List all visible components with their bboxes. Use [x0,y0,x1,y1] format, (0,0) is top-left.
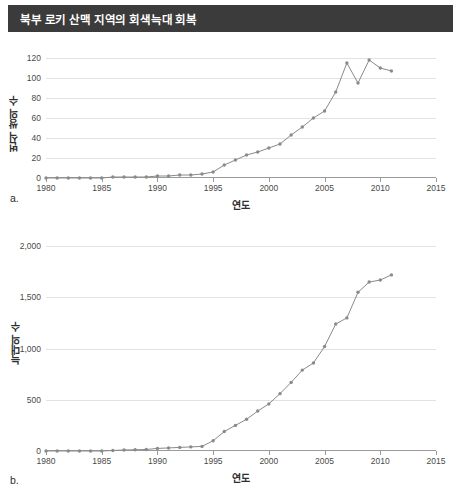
series-data-point [100,176,103,179]
x-tick-label: 1990 [148,456,167,466]
plot-area-a: 0204060801001201980198519901995200020052… [46,48,436,178]
x-tick-mark [269,178,270,182]
y-tick-label: 1,500 [20,292,41,302]
series-data-point [200,172,203,175]
series-data-point [44,449,47,452]
series-data-point [256,150,259,153]
series-data-point [89,176,92,179]
series-data-point [334,90,337,93]
x-tick-mark [436,451,437,455]
y-tick-label: 2,000 [20,241,41,251]
x-tick-label: 2015 [427,456,446,466]
x-tick-label: 2000 [259,183,278,193]
series-data-point [189,173,192,176]
series-data-point [267,402,270,405]
x-tick-mark [380,178,381,182]
series-data-point [133,175,136,178]
panel-letter-a: a. [10,192,19,204]
figure-title-bar: 북부 로키 산맥 지역의 회색늑대 회복 [8,5,453,32]
y-tick-label: 40 [32,133,41,143]
series-data-point [234,424,237,427]
x-tick-label: 1980 [37,183,56,193]
series-data-point [67,449,70,452]
series-data-point [289,133,292,136]
x-tick-label: 1985 [92,183,111,193]
series-data-point [356,81,359,84]
series-data-point [89,449,92,452]
x-tick-label: 2005 [315,456,334,466]
x-tick-mark [157,451,158,455]
x-tick-mark [325,178,326,182]
x-axis-title-a: 연도 [232,197,250,212]
series-data-point [345,61,348,64]
series-data-point [156,447,159,450]
x-tick-mark [269,451,270,455]
panel-letter-b: b. [10,474,19,486]
x-tick-label: 2010 [371,183,390,193]
x-tick-label: 1995 [204,183,223,193]
series-data-point [145,175,148,178]
series-data-point [178,446,181,449]
series-data-point [133,448,136,451]
series-data-point [211,439,214,442]
x-tick-mark [325,451,326,455]
y-tick-label: 60 [32,113,41,123]
series-line [46,60,391,178]
series-data-point [122,175,125,178]
y-tick-label: 80 [32,93,41,103]
y-tick-label: 500 [27,395,41,405]
x-tick-label: 1980 [37,456,56,466]
x-tick-mark [213,451,214,455]
series-data-point [67,176,70,179]
series-data-point [278,142,281,145]
x-tick-label: 1990 [148,183,167,193]
chart-panel-a: 번식 쌍의 수 02040608010012019801985199019952… [0,36,461,218]
series-data-point [390,69,393,72]
series-data-point [356,291,359,294]
series-data-point [312,361,315,364]
series-data-point [367,58,370,61]
y-tick-label: 100 [27,73,41,83]
series-data-point [200,445,203,448]
series-data-point [145,448,148,451]
series-data-point [78,176,81,179]
series-data-point [111,449,114,452]
series-data-point [379,66,382,69]
x-tick-mark [157,178,158,182]
series-data-point [312,116,315,119]
chart-panel-b: 늑대의 수 05001,0001,5002,000198019851990199… [0,222,461,496]
series-data-point [301,125,304,128]
series-data-point [167,174,170,177]
x-tick-label: 2015 [427,183,446,193]
y-tick-label: 120 [27,53,41,63]
y-tick-label: 0 [36,446,41,456]
x-tick-label: 2010 [371,456,390,466]
x-tick-mark [380,451,381,455]
series-data-point [122,448,125,451]
series-data-point [278,392,281,395]
figure-root: 북부 로키 산맥 지역의 회색늑대 회복 번식 쌍의 수 02040608010… [0,0,461,496]
series-data-point [167,446,170,449]
y-tick-label: 0 [36,173,41,183]
series-data-point [301,368,304,371]
line-series-b [46,236,436,451]
series-data-point [178,173,181,176]
series-line [46,275,391,451]
series-data-point [334,322,337,325]
series-data-point [55,176,58,179]
series-data-point [156,174,159,177]
series-data-point [323,109,326,112]
series-data-point [245,418,248,421]
series-data-point [189,445,192,448]
series-data-point [44,176,47,179]
x-tick-label: 2000 [259,456,278,466]
series-data-point [267,146,270,149]
series-data-point [78,449,81,452]
series-data-point [245,153,248,156]
figure-title: 북부 로키 산맥 지역의 회색늑대 회복 [8,11,197,27]
series-data-point [223,430,226,433]
x-tick-mark [436,178,437,182]
series-data-point [367,280,370,283]
series-data-point [111,175,114,178]
x-tick-mark [213,178,214,182]
